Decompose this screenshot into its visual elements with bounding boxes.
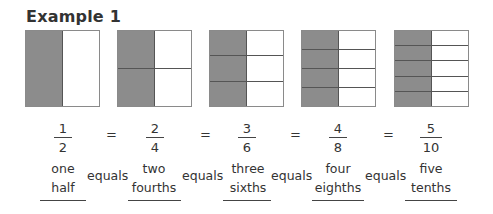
word-line: four: [308, 159, 368, 178]
fraction-bar: [238, 137, 256, 138]
word-five-tenths: five tenths: [401, 159, 461, 197]
equals-sign: =: [106, 127, 117, 142]
fraction-bar: [146, 137, 164, 138]
denominator: 10: [411, 140, 451, 155]
word-line: eighths: [308, 178, 368, 197]
fraction-model-halves: [25, 30, 100, 107]
word-two-fourths: two fourths: [124, 159, 184, 197]
fraction-bar: [329, 137, 347, 138]
answer-blank: [405, 200, 457, 201]
word-line: five: [401, 159, 461, 178]
fraction-model-eighths: [301, 30, 376, 107]
word-line: two: [124, 159, 184, 178]
equals-word: equals: [87, 168, 128, 183]
numerator: 1: [43, 121, 83, 136]
fraction-2-4: 24: [135, 121, 175, 155]
equals-sign: =: [290, 127, 301, 142]
word-line: one: [33, 159, 93, 178]
fraction-1-2: 12: [43, 121, 83, 155]
example-title: Example 1: [26, 7, 121, 26]
fraction-model-tenths: [394, 30, 469, 107]
fraction-bar: [54, 137, 72, 138]
numerator: 5: [411, 121, 451, 136]
word-four-eighths: four eighths: [308, 159, 368, 197]
numerator: 3: [227, 121, 267, 136]
answer-blank: [312, 200, 364, 201]
numerator: 2: [135, 121, 175, 136]
word-one-half: one half: [33, 159, 93, 197]
word-line: half: [33, 178, 93, 197]
fraction-model-sixths: [209, 30, 284, 107]
numerator: 4: [318, 121, 358, 136]
word-line: three: [218, 159, 278, 178]
denominator: 4: [135, 140, 175, 155]
equals-sign: =: [200, 127, 211, 142]
fraction-3-6: 36: [227, 121, 267, 155]
word-line: fourths: [124, 178, 184, 197]
denominator: 8: [318, 140, 358, 155]
denominator: 6: [227, 140, 267, 155]
fraction-5-10: 510: [411, 121, 451, 155]
fraction-bar: [420, 137, 442, 138]
fraction-model-fourths: [117, 30, 192, 107]
answer-blank: [40, 200, 86, 201]
word-three-sixths: three sixths: [218, 159, 278, 197]
answer-blank: [128, 200, 181, 201]
fraction-4-8: 48: [318, 121, 358, 155]
equals-sign: =: [383, 127, 394, 142]
word-line: tenths: [401, 178, 461, 197]
denominator: 2: [43, 140, 83, 155]
answer-blank: [223, 200, 271, 201]
word-line: sixths: [218, 178, 278, 197]
equals-word: equals: [271, 168, 312, 183]
